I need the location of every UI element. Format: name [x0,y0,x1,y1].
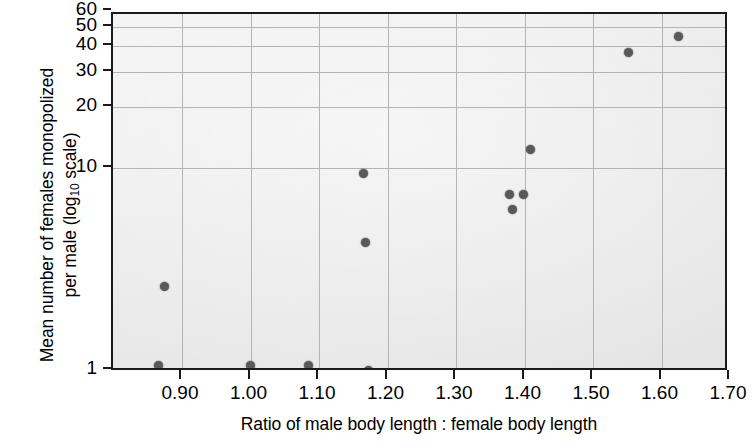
y-axis-tick-label: 40 [41,34,97,53]
data-point [674,32,683,41]
data-point [304,361,313,370]
y-axis-tick-label: 10 [41,156,97,175]
y-axis-tick-label: 1 [41,358,97,377]
gridline-horizontal [113,46,725,47]
gridline-horizontal [113,72,725,73]
data-point [624,48,633,57]
y-axis-title-line-2-pre: per male (log [60,197,80,298]
data-point [526,145,535,154]
y-axis-tick-label: 20 [41,95,97,114]
y-axis-title-subscript: 10 [68,183,82,196]
y-axis-tick [103,8,111,10]
gridline-vertical [456,14,457,368]
data-point [519,190,528,199]
x-axis-tick-label: 1.00 [214,383,284,402]
gridline-vertical [662,14,663,368]
x-axis-tick-label: 1.30 [419,383,489,402]
plot-paper-texture [113,14,725,368]
data-point [508,205,517,214]
y-axis-tick [103,24,111,26]
gridline-vertical [251,14,252,368]
data-point [361,238,370,247]
data-point [246,361,255,370]
x-axis-tick [659,370,661,379]
y-axis-tick [103,69,111,71]
x-axis-tick-label: 1.10 [282,383,352,402]
x-axis-tick [316,370,318,379]
gridline-vertical [593,14,594,368]
x-axis-tick [385,370,387,379]
y-axis-tick [103,104,111,106]
x-axis-tick-label: 1.60 [625,383,695,402]
y-axis-tick-label: 30 [41,60,97,79]
plot-area [111,12,727,370]
gridline-vertical [319,14,320,368]
gridline-vertical [182,14,183,368]
y-axis-tick [103,165,111,167]
data-point [359,169,368,178]
x-axis-tick [453,370,455,379]
x-axis-tick [248,370,250,379]
data-point [154,361,163,370]
gridline-vertical [388,14,389,368]
x-axis-title: Ratio of male body length : female body … [111,414,727,435]
gridline-horizontal [113,168,725,169]
x-axis-tick-label: 0.90 [145,383,215,402]
y-axis-tick-label: 60 [41,0,97,18]
scatter-plot-figure: Mean number of females monopolized per m… [0,0,753,443]
y-axis-title: Mean number of females monopolized per m… [30,25,90,405]
data-point [160,282,169,291]
gridline-horizontal [113,27,725,28]
x-axis-tick [522,370,524,379]
data-point [505,190,514,199]
y-axis-tick [103,367,111,369]
x-axis-tick-label: 1.40 [488,383,558,402]
data-point [364,366,373,371]
gridline-horizontal [113,107,725,108]
x-axis-tick [590,370,592,379]
y-axis-tick [103,43,111,45]
x-axis-tick-label: 1.50 [556,383,626,402]
x-axis-tick [179,370,181,379]
x-axis-tick [727,370,729,379]
x-axis-tick-label: 1.20 [351,383,421,402]
x-axis-tick-label: 1.70 [693,383,753,402]
